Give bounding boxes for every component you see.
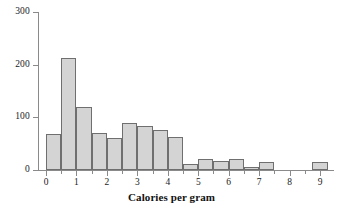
x-tick-mark-minor: [61, 171, 62, 174]
y-tick-mark: [33, 65, 38, 66]
y-tick-mark: [33, 117, 38, 118]
y-tick-label: 300: [0, 7, 30, 17]
x-tick-label: 3: [127, 177, 147, 188]
x-tick-label: 0: [36, 177, 56, 188]
y-tick-label: 100: [0, 112, 30, 122]
histogram-bar: [312, 162, 327, 170]
x-tick-label: 2: [97, 177, 117, 188]
x-tick-mark-minor: [213, 171, 214, 174]
histogram-bar: [259, 162, 274, 170]
x-tick-label: 7: [249, 177, 269, 188]
x-tick-mark: [198, 171, 199, 176]
histogram-bar: [168, 137, 183, 170]
histogram-bar: [107, 138, 122, 170]
x-tick-mark: [76, 171, 77, 176]
x-tick-label: 5: [188, 177, 208, 188]
x-tick-mark: [320, 171, 321, 176]
plot-area: 0100200300 0123456789: [0, 0, 343, 216]
histogram-bar: [76, 107, 91, 170]
histogram-bar: [244, 167, 259, 170]
histogram-bar: [229, 159, 244, 170]
x-tick-label: 1: [66, 177, 86, 188]
x-tick-mark-minor: [122, 171, 123, 174]
x-tick-mark-minor: [274, 171, 275, 174]
x-tick-label: 9: [310, 177, 330, 188]
histogram-bar: [198, 159, 213, 170]
x-tick-mark: [168, 171, 169, 176]
x-tick-mark-minor: [305, 171, 306, 174]
histogram-bar: [61, 58, 76, 170]
x-tick-mark-minor: [153, 171, 154, 174]
histogram-bar: [153, 130, 168, 170]
x-tick-mark: [107, 171, 108, 176]
histogram-bar: [46, 134, 61, 170]
x-tick-mark: [290, 171, 291, 176]
x-tick-label: 6: [219, 177, 239, 188]
x-tick-mark-minor: [92, 171, 93, 174]
y-tick-mark: [33, 170, 38, 171]
x-axis-title: Calories per gram: [0, 191, 343, 204]
histogram-bar: [92, 133, 107, 170]
histogram-bar: [122, 123, 137, 170]
x-tick-mark-minor: [244, 171, 245, 174]
histogram-chart: 0100200300 0123456789 Calories per gram: [0, 0, 343, 216]
x-tick-mark-minor: [183, 171, 184, 174]
histogram-bar: [137, 126, 152, 170]
x-tick-mark: [46, 171, 47, 176]
x-tick-mark: [137, 171, 138, 176]
y-axis-line: [38, 12, 39, 171]
x-tick-label: 8: [280, 177, 300, 188]
y-tick-label: 200: [0, 60, 30, 70]
x-tick-mark: [229, 171, 230, 176]
histogram-bar: [183, 164, 198, 170]
x-tick-mark: [259, 171, 260, 176]
y-tick-label: 0: [0, 165, 30, 175]
x-tick-label: 4: [158, 177, 178, 188]
histogram-bar: [213, 161, 228, 170]
y-tick-mark: [33, 12, 38, 13]
